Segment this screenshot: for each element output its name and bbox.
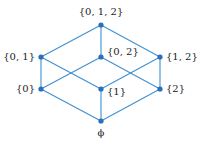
node-n1 xyxy=(98,86,103,91)
node-label-n02: {0, 2} xyxy=(107,46,139,57)
node-n12 xyxy=(157,54,162,59)
node-label-n2: {2} xyxy=(166,83,185,94)
node-top xyxy=(98,22,103,27)
node-label-n12: {1, 2} xyxy=(166,51,198,62)
hasse-diagram: {0, 1, 2}{0, 1}{0, 2}{1, 2}{0}{1}{2}ϕ xyxy=(0,0,199,147)
node-n2 xyxy=(157,86,162,91)
edges xyxy=(41,25,160,121)
node-label-n1: {1} xyxy=(107,86,126,97)
node-empty xyxy=(98,118,103,123)
node-n02 xyxy=(98,54,103,59)
node-label-n0: {0} xyxy=(16,83,35,94)
node-label-top: {0, 1, 2} xyxy=(79,6,124,17)
node-label-n01: {0, 1} xyxy=(3,51,35,62)
edge-n0-empty xyxy=(41,89,101,121)
node-n0 xyxy=(38,86,43,91)
node-label-empty: ϕ xyxy=(98,127,105,138)
node-n01 xyxy=(38,54,43,59)
edge-top-n01 xyxy=(41,25,101,57)
